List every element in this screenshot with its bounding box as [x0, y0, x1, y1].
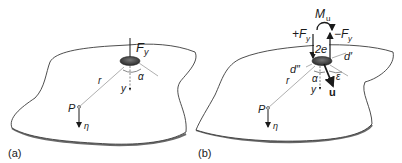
moment-label-b: M: [315, 7, 325, 21]
plate-diagram: F y α r y P η (a) M u +F: [0, 0, 402, 163]
force-neg-label-b: −F: [334, 27, 349, 41]
force-neg-sub-b: y: [347, 34, 353, 43]
angle-label-a: α: [138, 71, 144, 82]
force-pos-label-b: +F: [292, 27, 307, 41]
load-patch-b: [312, 57, 332, 66]
force-pos-sub-b: y: [305, 34, 311, 43]
moment-sub-b: u: [326, 14, 330, 23]
axis-label-b: y: [310, 84, 317, 95]
d-prime-label-b: d′: [344, 50, 353, 62]
d-double-prime-label-b: d″: [290, 63, 301, 75]
caption-b: (b): [198, 147, 211, 159]
plate-a-outline: [11, 44, 196, 144]
panel-a: F y α r y P η (a): [8, 38, 196, 159]
epsilon-label-b: ε: [336, 71, 341, 82]
panel-b: M u +F y −F y 2e d′ d″ α ε r y u P η (b): [196, 7, 393, 159]
load-patch-a: [120, 57, 140, 66]
offset-label-b: 2e: [314, 43, 327, 55]
point-label-a: P: [68, 102, 76, 114]
caption-a: (a): [8, 147, 21, 159]
angle-label-b: α: [312, 73, 318, 84]
direction-label-b: u: [329, 86, 336, 98]
point-label-b: P: [258, 103, 266, 115]
eta-label-a: η: [84, 121, 89, 131]
axis-label-a: y: [120, 83, 127, 94]
plate-b-outline: [196, 45, 393, 141]
force-sub-a: y: [143, 47, 149, 57]
eta-label-b: η: [273, 121, 278, 131]
